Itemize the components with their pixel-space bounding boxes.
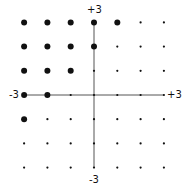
small-point <box>116 94 118 96</box>
small-point <box>93 94 95 96</box>
large-point <box>21 92 27 98</box>
large-point <box>21 116 27 122</box>
small-point <box>116 70 118 72</box>
small-point <box>163 46 165 48</box>
small-point <box>70 118 72 120</box>
lattice-diagram <box>0 0 189 192</box>
small-point <box>140 21 142 23</box>
small-point <box>70 94 72 96</box>
large-point <box>68 68 74 74</box>
large-point <box>91 19 97 25</box>
small-point <box>116 167 118 169</box>
x-axis-right-label: +3 <box>167 90 182 100</box>
small-point <box>116 46 118 48</box>
small-point <box>163 167 165 169</box>
large-point <box>21 44 27 50</box>
small-point <box>116 118 118 120</box>
large-point <box>68 19 74 25</box>
small-point <box>93 142 95 144</box>
small-point <box>140 118 142 120</box>
large-point <box>44 44 50 50</box>
small-point <box>163 70 165 72</box>
large-point <box>91 44 97 50</box>
small-point <box>23 142 25 144</box>
small-point <box>46 167 48 169</box>
small-point <box>46 118 48 120</box>
large-point <box>44 19 50 25</box>
large-point <box>21 68 27 74</box>
small-point <box>163 142 165 144</box>
small-point <box>46 142 48 144</box>
small-point <box>116 142 118 144</box>
y-axis-bottom-label: -3 <box>89 175 99 185</box>
small-point <box>140 46 142 48</box>
small-point <box>140 94 142 96</box>
small-point <box>93 70 95 72</box>
y-axis-top-label: +3 <box>87 5 102 15</box>
small-point <box>23 167 25 169</box>
small-point <box>93 167 95 169</box>
lattice-points <box>21 19 165 168</box>
small-point <box>163 94 165 96</box>
large-point <box>68 44 74 50</box>
small-point <box>70 142 72 144</box>
small-point <box>140 70 142 72</box>
small-point <box>163 118 165 120</box>
x-axis-left-label: -3 <box>9 90 19 100</box>
small-point <box>140 142 142 144</box>
large-point <box>21 19 27 25</box>
small-point <box>140 167 142 169</box>
small-point <box>70 167 72 169</box>
large-point <box>44 68 50 74</box>
small-point <box>163 21 165 23</box>
large-point <box>44 92 50 98</box>
large-point <box>114 19 120 25</box>
small-point <box>93 118 95 120</box>
